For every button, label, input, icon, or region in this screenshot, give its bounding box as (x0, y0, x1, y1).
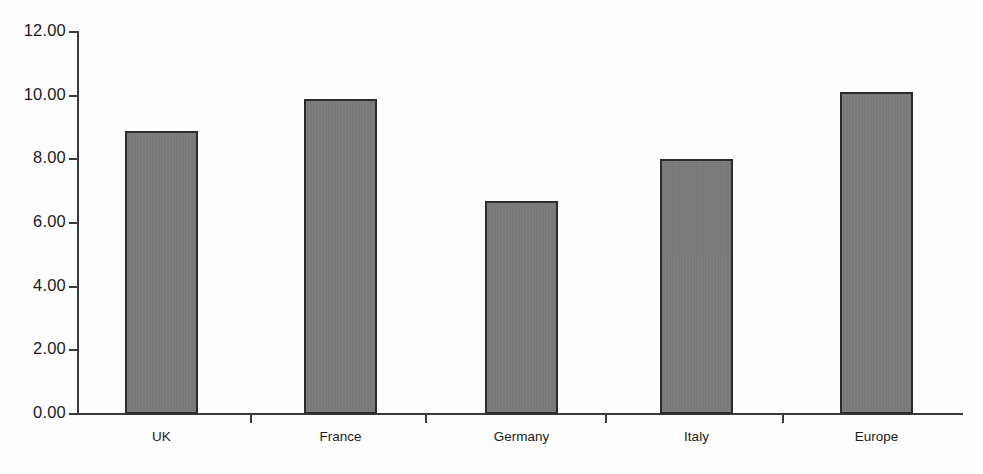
y-tick-mark (69, 349, 78, 351)
x-tick-label-france: France (319, 429, 361, 444)
bar-texture (487, 203, 556, 412)
y-tick-label: 4.00 (0, 276, 66, 295)
y-tick-label: 6.00 (0, 212, 66, 231)
y-tick-mark (69, 158, 78, 160)
bar-italy (660, 159, 733, 414)
y-tick-mark (69, 222, 78, 224)
y-tick-label: 2.00 (0, 339, 66, 358)
bar-texture (662, 161, 731, 412)
y-tick-mark (69, 31, 78, 33)
x-tick-mark (425, 415, 427, 423)
y-tick-mark (69, 95, 78, 97)
x-tick-label-europe: Europe (855, 429, 899, 444)
y-tick-label: 8.00 (0, 148, 66, 167)
x-tick-mark (782, 415, 784, 423)
bar-france (304, 99, 377, 414)
y-tick-label: 12.00 (0, 21, 66, 40)
bar-texture (306, 101, 375, 412)
bar-texture (842, 94, 911, 412)
x-tick-label-italy: Italy (684, 429, 709, 444)
bar-uk (125, 131, 198, 414)
y-tick-mark (69, 413, 78, 415)
x-tick-mark (605, 415, 607, 423)
bar-chart: 0.002.004.006.008.0010.0012.00 UKFranceG… (0, 0, 983, 474)
y-tick-label: 0.00 (0, 403, 66, 422)
y-tick-mark (69, 286, 78, 288)
bar-europe (840, 92, 913, 414)
x-tick-label-germany: Germany (494, 429, 550, 444)
bar-texture (127, 133, 196, 412)
x-tick-mark (250, 415, 252, 423)
x-tick-label-uk: UK (152, 429, 171, 444)
y-tick-label: 10.00 (0, 85, 66, 104)
bar-germany (485, 201, 558, 414)
